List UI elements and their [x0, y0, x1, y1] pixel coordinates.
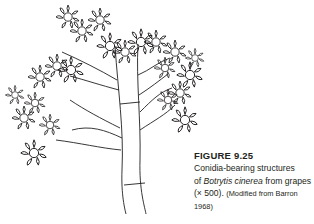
magnification: (× 500). [194, 188, 226, 198]
figure-caption: FIGURE 9.25 Conidia-bearing structures o… [194, 150, 314, 213]
figure-page: FIGURE 9.25 Conidia-bearing structures o… [0, 0, 314, 224]
caption-line: of Botrytis cinerea from grapes [194, 175, 314, 188]
figure-label: FIGURE 9.25 [194, 150, 314, 162]
caption-text: from grapes [263, 176, 311, 186]
caption-line: Conidia-bearing structures [194, 162, 314, 175]
source-note: (Modified from Barron [226, 189, 297, 198]
caption-text: of [194, 176, 204, 186]
source-year: 1968) [194, 201, 314, 214]
caption-line: (× 500). (Modified from Barron [194, 187, 314, 201]
species-name: Botrytis cinerea [204, 176, 263, 186]
